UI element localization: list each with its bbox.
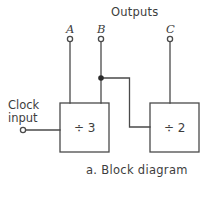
block-diagram-figure: Outputs A B C Clock input ÷ 3 ÷ 2 a. Blo… <box>0 0 215 207</box>
clock-input-label: Clock input <box>8 99 39 125</box>
terminal-circle-c <box>167 36 172 41</box>
terminal-circle-b <box>98 36 103 41</box>
terminal-circle-clock-input <box>20 127 25 132</box>
terminal-circle-a <box>67 36 72 41</box>
output-pin-b-label: B <box>97 24 105 36</box>
outputs-header-label: Outputs <box>111 7 158 19</box>
divide-by-3-block-label: ÷ 3 <box>74 121 96 135</box>
junction-dot-b <box>98 75 104 81</box>
figure-caption: a. Block diagram <box>86 165 188 177</box>
output-pin-a-label: A <box>66 24 74 36</box>
divide-by-2-block-label: ÷ 2 <box>164 121 186 135</box>
output-pin-c-label: C <box>166 24 175 36</box>
clock-input-label-line2: input <box>8 112 39 125</box>
